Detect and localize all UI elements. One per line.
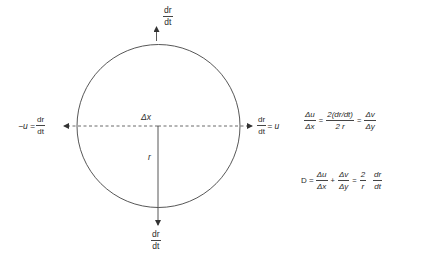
radius-label: r bbox=[148, 153, 151, 162]
divergence-equation: D = Δu Δx + Δv Δy = 2 r dr dt bbox=[301, 171, 382, 191]
divergence-ratio-equation: Δu Δx = 2(dr/dt) 2 r = Δv Δy bbox=[304, 111, 376, 131]
left-velocity-label: −u = dr dt bbox=[18, 116, 45, 136]
top-dr-dt-label: dr dt bbox=[163, 6, 173, 27]
delta-x-label: Δx bbox=[141, 113, 151, 122]
bottom-dr-dt-label: dr dt bbox=[151, 230, 161, 251]
right-velocity-label: dr dt = u bbox=[257, 116, 279, 136]
